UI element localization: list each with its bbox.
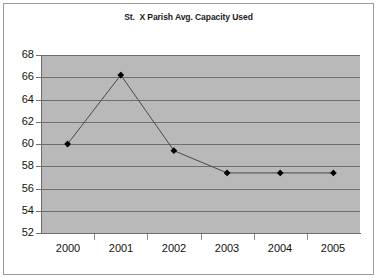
y-axis-tick	[36, 100, 41, 101]
x-axis-tick	[201, 234, 202, 240]
x-axis-label: 2001	[109, 243, 133, 254]
x-axis-label: 2005	[321, 243, 345, 254]
data-point-marker	[331, 170, 336, 175]
x-axis-label: 2003	[215, 243, 239, 254]
y-axis-tick	[36, 211, 41, 212]
data-point-marker	[224, 170, 229, 175]
y-axis-label: 56	[22, 183, 34, 194]
x-axis-tick	[147, 234, 148, 240]
y-axis-tick	[36, 189, 41, 190]
y-axis-tick	[36, 122, 41, 123]
data-point-marker	[278, 170, 283, 175]
chart-page: St. X Parish Avg. Capacity Used 52545658…	[0, 0, 377, 278]
y-axis-label: 68	[22, 49, 34, 60]
y-axis-label: 64	[22, 94, 34, 105]
y-axis-label: 60	[22, 138, 34, 149]
y-axis-tick	[36, 233, 41, 234]
data-series-line	[41, 55, 360, 233]
y-axis-tick	[36, 144, 41, 145]
x-axis-tick	[94, 234, 95, 240]
chart-title: St. X Parish Avg. Capacity Used	[19, 11, 358, 22]
y-axis-label: 54	[22, 205, 34, 216]
x-axis-label: 2000	[56, 243, 80, 254]
x-axis-tick	[254, 234, 255, 240]
x-axis-tick	[307, 234, 308, 240]
y-axis-tick	[36, 166, 41, 167]
x-axis-label: 2004	[268, 243, 292, 254]
y-axis-tick	[36, 77, 41, 78]
y-axis-label: 58	[22, 160, 34, 171]
x-axis-label: 2002	[162, 243, 186, 254]
y-axis-label-group: 525456586062646668	[0, 0, 34, 278]
y-axis-tick	[36, 55, 41, 56]
y-axis-label: 52	[22, 227, 34, 238]
y-axis-label: 66	[22, 71, 34, 82]
y-axis-label: 62	[22, 116, 34, 127]
